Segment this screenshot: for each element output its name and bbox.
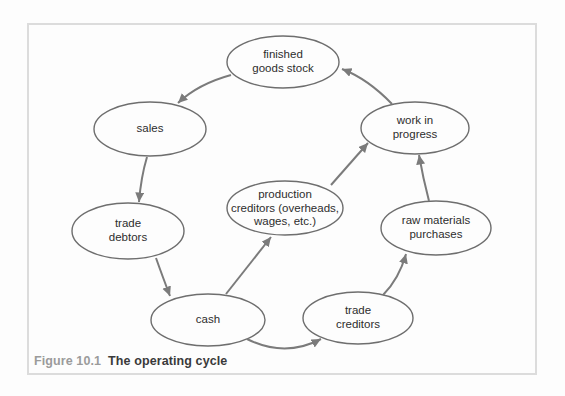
figure-caption-title: The operating cycle [108, 354, 227, 368]
figure-caption-label: Figure 10.1 [34, 354, 101, 368]
node-work-in-progress [361, 102, 469, 154]
arrow-production-creditors-to-work-in-progress [331, 143, 368, 185]
arrow-sales-to-trade-debtors [139, 157, 147, 202]
arrow-finished-goods-stock-to-sales [178, 75, 231, 103]
arrow-cash-to-production-creditors [226, 237, 271, 294]
arrow-raw-materials-purchases-to-work-in-progress [419, 155, 429, 201]
arrow-trade-creditors-to-raw-materials-purchases [383, 254, 406, 295]
arrow-cash-to-trade-creditors [247, 339, 321, 349]
node-raw-materials-purchases [381, 201, 491, 255]
node-cash [151, 294, 265, 346]
operating-cycle-diagram [0, 0, 565, 396]
arrow-work-in-progress-to-finished-goods-stock [342, 69, 392, 104]
node-finished-goods-stock [227, 36, 339, 88]
node-production-creditors [227, 181, 343, 235]
figure-panel: finishedgoods stocksalestradedebtorscash… [0, 0, 565, 396]
node-trade-debtors [72, 203, 184, 259]
arrow-trade-debtors-to-cash [156, 258, 170, 296]
figure-caption: Figure 10.1The operating cycle [34, 354, 227, 368]
node-trade-creditors [303, 292, 413, 344]
node-sales [94, 102, 206, 156]
